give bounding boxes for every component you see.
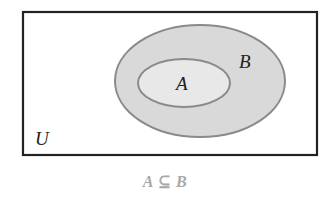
set-a-label: A [174,73,188,94]
diagram-caption: A ⊆ B [0,172,330,191]
set-b-label: B [239,51,251,72]
universe-label: U [35,128,50,149]
venn-diagram-figure: A B U A ⊆ B [0,0,330,203]
